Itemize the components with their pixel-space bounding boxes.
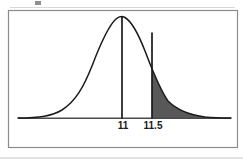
axis-tick-label-cutoff: 11.5 <box>138 120 168 131</box>
axis-tick-label-mean: 11 <box>113 120 133 131</box>
distribution-plot <box>0 0 243 160</box>
normal-distribution-figure: 11 11.5 <box>0 0 243 160</box>
